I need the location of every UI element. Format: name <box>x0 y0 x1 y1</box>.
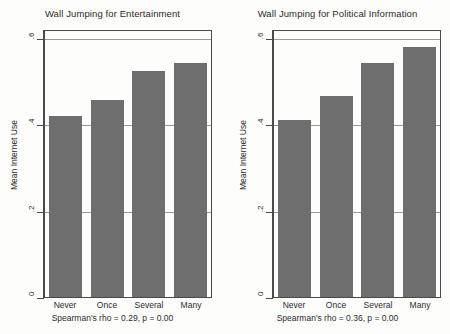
y-tick-label-0.2: .2 <box>27 206 36 220</box>
x-tick-label-several: Several <box>357 300 399 310</box>
bar-several <box>361 63 394 297</box>
x-tick-label-many: Many <box>170 300 212 310</box>
bar-once <box>320 96 353 298</box>
y-tick-mark-0 <box>266 298 272 299</box>
bar-many <box>174 63 207 297</box>
y-tick-mark-0.4 <box>37 125 43 126</box>
y-tick-mark-0 <box>37 298 43 299</box>
y-tick-label-0.4: .4 <box>256 119 265 133</box>
x-tick-label-several: Several <box>128 300 170 310</box>
chart-panel-political-information: Wall Jumping for Political Information M… <box>225 0 450 334</box>
bar-series <box>274 31 440 297</box>
y-tick-label-0.4: .4 <box>27 119 36 133</box>
bar-many <box>403 47 436 297</box>
y-axis-label: Mean Internet Use <box>238 95 248 215</box>
y-tick-mark-0.4 <box>266 125 272 126</box>
plot-area <box>273 30 441 298</box>
y-tick-label-0.2: .2 <box>256 206 265 220</box>
y-tick-mark-0.2 <box>266 212 272 213</box>
bar-several <box>132 71 165 297</box>
bar-never <box>49 116 82 297</box>
two-panel-bar-chart-figure: Wall Jumping for Entertainment Mean Inte… <box>0 0 450 334</box>
y-tick-label-0.6: .6 <box>27 33 36 47</box>
x-axis-tick-labels: Never Once Several Many <box>273 300 441 310</box>
y-tick-label-0: 0 <box>256 292 265 306</box>
chart-panel-entertainment: Wall Jumping for Entertainment Mean Inte… <box>0 0 225 334</box>
y-tick-mark-0.2 <box>37 212 43 213</box>
panel-annotation: Spearman's rho = 0.36, p = 0.00 <box>225 313 450 323</box>
bar-never <box>278 120 311 297</box>
panel-title: Wall Jumping for Political Information <box>225 8 450 19</box>
x-tick-label-once: Once <box>86 300 128 310</box>
panel-title: Wall Jumping for Entertainment <box>0 8 225 19</box>
bar-once <box>91 100 124 297</box>
y-tick-mark-0.6 <box>266 39 272 40</box>
x-tick-label-many: Many <box>399 300 441 310</box>
bar-series <box>45 31 211 297</box>
x-tick-label-never: Never <box>273 300 315 310</box>
y-tick-mark-0.6 <box>37 39 43 40</box>
y-tick-label-0.6: .6 <box>256 33 265 47</box>
y-axis-label: Mean Internet Use <box>9 95 19 215</box>
x-axis-tick-labels: Never Once Several Many <box>44 300 212 310</box>
x-tick-label-once: Once <box>315 300 357 310</box>
x-tick-label-never: Never <box>44 300 86 310</box>
y-tick-label-0: 0 <box>27 292 36 306</box>
plot-area <box>44 30 212 298</box>
panel-annotation: Spearman's rho = 0.29, p = 0.00 <box>0 313 225 323</box>
